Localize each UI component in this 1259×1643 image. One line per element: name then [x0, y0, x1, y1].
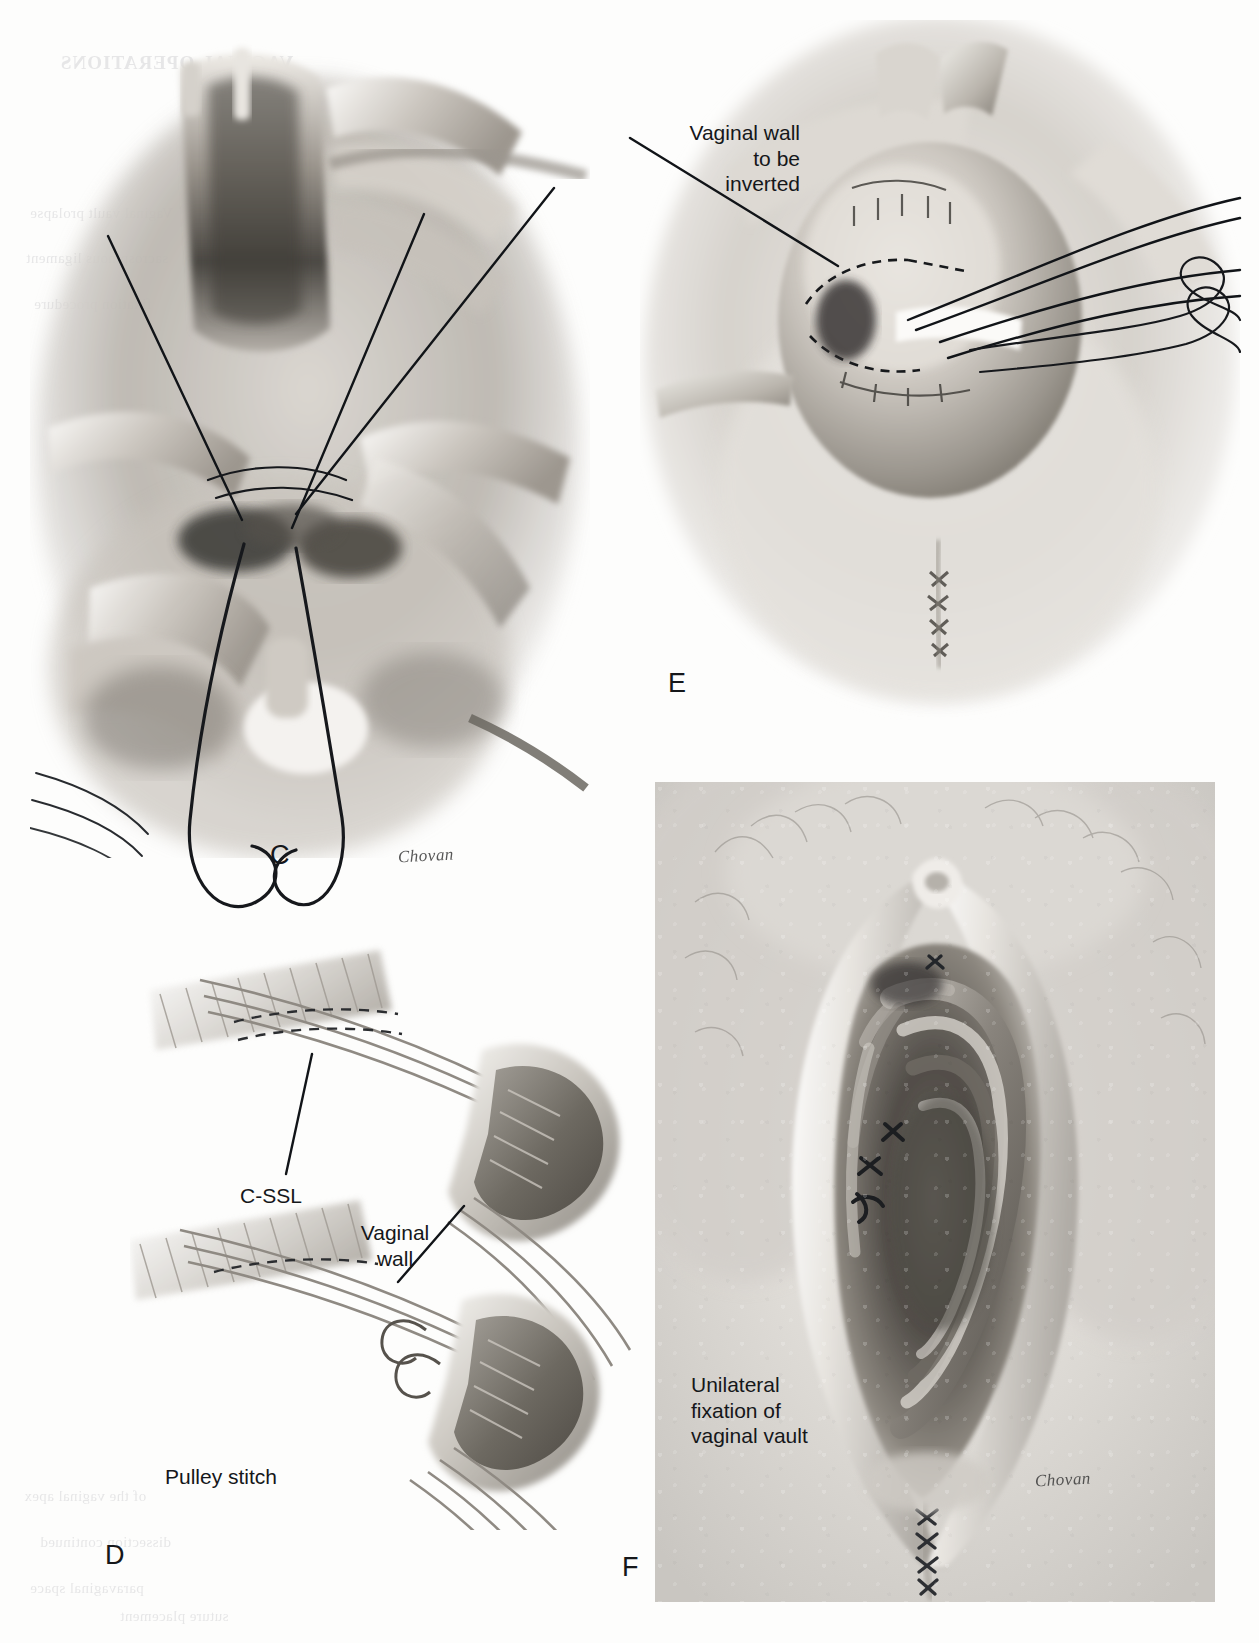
panel-letter-d: D — [105, 1540, 125, 1571]
label-unilateral-fixation-of-vaginal-vault: Unilateral fixation of vaginal vault — [691, 1372, 808, 1449]
panel-letter-e: E — [668, 668, 686, 699]
panel-letter-c: C — [270, 840, 290, 871]
label-pulley-stitch: Pulley stitch — [165, 1464, 277, 1490]
bleed-line-7: suture placement — [120, 1608, 228, 1625]
panel-c-artwork — [30, 28, 590, 858]
panel-f-artwork — [655, 782, 1215, 1602]
panel-e-illustration: Vaginal wall to be inverted E — [640, 20, 1240, 720]
artist-signature-panel-c: Chovan — [398, 845, 455, 868]
figure-page: VAGINAL OPERATIONS Vaginal vault prolaps… — [0, 0, 1259, 1643]
label-vaginal-wall: Vaginal wall — [330, 1220, 460, 1271]
label-vaginal-wall-to-be-inverted: Vaginal wall to be inverted — [570, 120, 800, 197]
bleed-line-4: of the vaginal apex — [24, 1488, 146, 1505]
panel-f-illustration: Unilateral fixation of vaginal vault Cho… — [655, 782, 1215, 1602]
bleed-line-6: paravaginal space — [30, 1580, 144, 1597]
label-c-ssl: C-SSL — [240, 1183, 302, 1209]
panel-c-illustration: C Chovan — [30, 28, 590, 858]
panel-letter-f: F — [622, 1552, 639, 1583]
panel-d-illustration: C-SSL Vaginal wall Pulley stitch D — [130, 930, 650, 1530]
artist-signature-panel-f: Chovan — [1035, 1469, 1092, 1492]
